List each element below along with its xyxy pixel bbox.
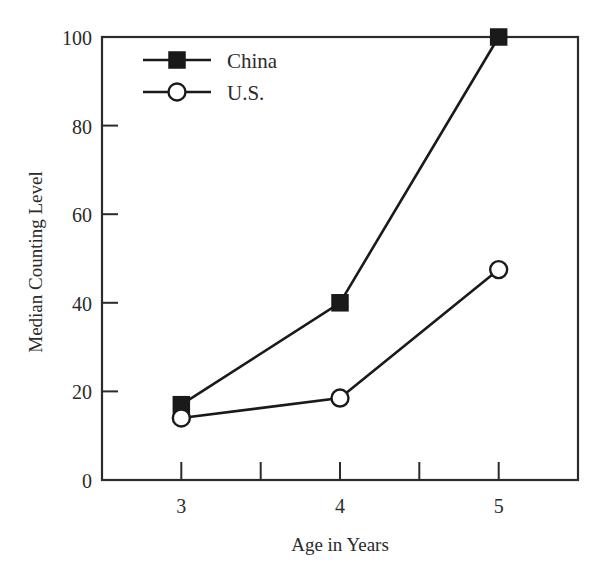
legend-label-us: U.S. — [227, 81, 264, 105]
data-point-marker-square — [491, 29, 507, 45]
y-tick-label: 40 — [72, 293, 92, 315]
open-circle-icon — [169, 84, 186, 101]
y-tick-label-group: 100 80 60 40 20 0 — [62, 27, 92, 492]
filled-square-icon — [169, 52, 185, 68]
y-tick-label: 80 — [72, 116, 92, 138]
data-point-marker-circle — [332, 390, 349, 407]
x-tick-label: 5 — [494, 495, 504, 517]
chart-legend: China U.S. — [143, 49, 278, 105]
y-axis-ticks — [102, 126, 118, 392]
data-point-marker-circle — [173, 409, 190, 426]
series-china — [173, 29, 506, 413]
x-tick-label-group: 3 4 5 — [176, 495, 503, 517]
legend-entry-us: U.S. — [143, 81, 264, 105]
y-tick-label: 20 — [72, 381, 92, 403]
x-tick-label: 3 — [176, 495, 186, 517]
x-axis-ticks — [181, 462, 498, 480]
y-tick-label: 60 — [72, 204, 92, 226]
y-tick-label: 100 — [62, 27, 92, 49]
x-axis-title: Age in Years — [291, 534, 389, 555]
series-markers-us — [173, 261, 507, 426]
data-point-marker-square — [332, 295, 348, 311]
line-chart: 100 80 60 40 20 0 3 4 5 Age in Years Med… — [0, 0, 611, 572]
x-tick-label: 4 — [335, 495, 345, 517]
data-point-marker-circle — [490, 261, 507, 278]
y-axis-title: Median Counting Level — [25, 171, 46, 353]
chart-figure: 100 80 60 40 20 0 3 4 5 Age in Years Med… — [0, 0, 611, 572]
y-tick-label: 0 — [82, 470, 92, 492]
legend-label-china: China — [227, 49, 278, 73]
legend-entry-china: China — [143, 49, 278, 73]
series-us — [173, 261, 507, 426]
series-markers-china — [173, 29, 506, 413]
